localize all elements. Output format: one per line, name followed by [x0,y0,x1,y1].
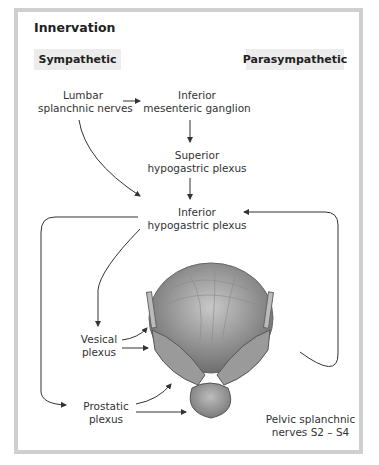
arrows-and-illustration [0,0,379,465]
bladder-prostate-illustration [147,263,274,418]
